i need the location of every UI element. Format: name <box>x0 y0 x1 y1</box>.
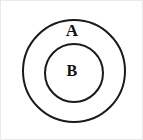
euler-diagram-canvas: A B <box>0 0 143 140</box>
outer-set-label: A <box>66 22 78 39</box>
inner-set-label: B <box>67 63 78 79</box>
